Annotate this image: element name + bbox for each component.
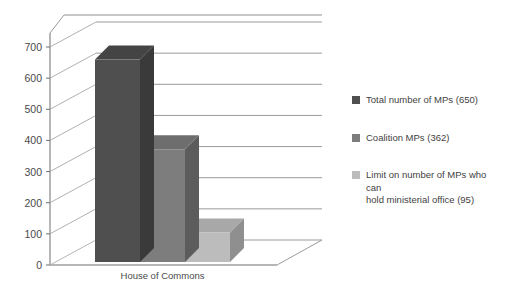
bar-side-face bbox=[140, 46, 154, 262]
legend-swatch bbox=[352, 96, 360, 104]
y-axis-tick-label: 600 bbox=[24, 72, 42, 84]
y-axis-tick-label: 100 bbox=[24, 228, 42, 240]
bar-3d[interactable] bbox=[95, 46, 154, 262]
chart-container: 0100200300400500600700 House of Commons … bbox=[0, 0, 506, 295]
gridline-riser bbox=[50, 147, 96, 172]
legend-item[interactable]: Total number of MPs (650) bbox=[352, 94, 502, 107]
gridline-riser bbox=[50, 209, 96, 234]
y-axis-ticks-group: 0100200300400500600700 bbox=[24, 41, 50, 271]
gridline-riser bbox=[50, 178, 96, 203]
gridline-riser bbox=[50, 22, 96, 47]
gridline-riser bbox=[50, 53, 96, 78]
bar-front-face bbox=[95, 60, 140, 262]
y-axis-tick-label: 300 bbox=[24, 166, 42, 178]
x-axis-category-label: House of Commons bbox=[121, 270, 205, 281]
legend-swatch bbox=[352, 134, 360, 142]
gridline-riser bbox=[50, 84, 96, 109]
legend-swatch bbox=[352, 171, 360, 179]
y-axis-tick-label: 0 bbox=[36, 259, 42, 271]
legend-item[interactable]: Limit on number of MPs who can hold mini… bbox=[352, 169, 502, 207]
legend-label: Limit on number of MPs who can hold mini… bbox=[366, 169, 502, 207]
bars-group bbox=[95, 46, 244, 262]
chart-legend: Total number of MPs (650) Coalition MPs … bbox=[352, 94, 502, 207]
gridline-riser bbox=[50, 115, 96, 140]
bar-side-face bbox=[185, 135, 199, 262]
legend-item[interactable]: Coalition MPs (362) bbox=[352, 132, 502, 145]
floor-right-depth-edge bbox=[277, 240, 322, 265]
legend-label: Coalition MPs (362) bbox=[366, 132, 449, 145]
y-axis-tick-label: 200 bbox=[24, 197, 42, 209]
y-axis-tick-label: 400 bbox=[24, 134, 42, 146]
legend-label: Total number of MPs (650) bbox=[366, 94, 478, 107]
y-axis-tick-label: 700 bbox=[24, 41, 42, 53]
floor-left-depth-edge bbox=[50, 240, 96, 265]
depth-line-top bbox=[50, 15, 64, 33]
y-axis-tick-label: 500 bbox=[24, 103, 42, 115]
